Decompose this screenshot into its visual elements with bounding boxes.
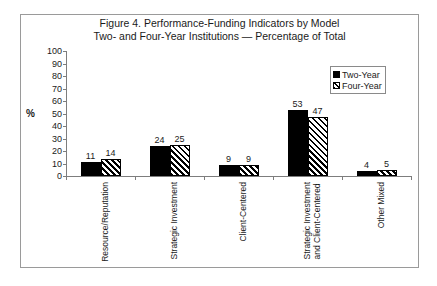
y-axis-tick-mark [63, 101, 67, 102]
category-label-line: Client-Centered [238, 182, 248, 242]
category-label-line: Other Mixed [376, 182, 386, 228]
bar-two-year [288, 110, 308, 176]
category-label-line: and Client-Centered [312, 182, 322, 259]
bar-two-year [150, 146, 170, 176]
bar-four-year [170, 145, 190, 176]
y-axis-tick-mark [63, 89, 67, 90]
bar-four-year [308, 117, 328, 176]
y-axis-tick-mark [63, 76, 67, 77]
category-label-line: Strategic Investment [169, 182, 179, 259]
x-axis-category-label: Other Mixed [376, 182, 386, 228]
y-axis-tick-mark [63, 64, 67, 65]
y-axis-label: % [26, 108, 35, 119]
x-axis-tick-mark [273, 176, 274, 180]
x-axis-category-label: Resource/Reputation [100, 182, 110, 262]
bar-value-label: 11 [86, 151, 95, 161]
y-axis-tick-mark [63, 126, 67, 127]
y-axis-tick-mark [63, 139, 67, 140]
bar-four-year [101, 159, 121, 177]
x-axis-category-label: Strategic Investmentand Client-Centered [302, 182, 322, 259]
y-axis-tick-mark [63, 151, 67, 152]
chart-title-block: Figure 4. Performance-Funding Indicators… [20, 17, 419, 43]
bar-four-year [239, 165, 259, 176]
y-axis-tick-mark [63, 114, 67, 115]
bar-two-year [219, 165, 239, 176]
legend-swatch-four-year-icon [333, 82, 340, 89]
figure-container: Figure 4. Performance-Funding Indicators… [0, 0, 437, 286]
legend-swatch-two-year-icon [333, 71, 340, 78]
y-axis-tick-mark [63, 51, 67, 52]
chart-title: Figure 4. Performance-Funding Indicators… [20, 17, 419, 30]
bar-two-year [357, 171, 377, 176]
bar-value-label: 9 [246, 154, 251, 164]
bar-value-label: 14 [105, 148, 115, 158]
x-axis-tick-mark [342, 176, 343, 180]
bar-value-label: 5 [384, 159, 389, 169]
x-axis-tick-mark [66, 176, 67, 180]
legend-item-label: Four-Year [342, 81, 382, 91]
bar-value-label: 4 [364, 160, 369, 170]
category-label-line: Strategic Investment [302, 182, 312, 259]
x-axis-tick-mark [135, 176, 136, 180]
y-axis-tick-mark [63, 164, 67, 165]
legend-item: Two-Year [333, 69, 382, 80]
legend-item: Four-Year [333, 80, 382, 91]
bar-value-label: 25 [174, 134, 184, 144]
bar-two-year [81, 162, 101, 176]
bar-value-label: 47 [312, 106, 322, 116]
chart-legend: Two-YearFour-Year [330, 66, 386, 94]
x-axis-line [66, 176, 412, 177]
x-axis-tick-mark [204, 176, 205, 180]
bar-value-label: 24 [154, 135, 164, 145]
bar-four-year [377, 170, 397, 176]
category-label-line: Resource/Reputation [100, 182, 110, 262]
chart-subtitle: Two- and Four-Year Institutions — Percen… [20, 30, 419, 43]
x-axis-tick-mark [411, 176, 412, 180]
bar-value-label: 9 [226, 154, 231, 164]
x-axis-category-label: Strategic Investment [169, 182, 179, 259]
bar-value-label: 53 [292, 99, 302, 109]
legend-item-label: Two-Year [342, 70, 380, 80]
x-axis-category-label: Client-Centered [238, 182, 248, 242]
